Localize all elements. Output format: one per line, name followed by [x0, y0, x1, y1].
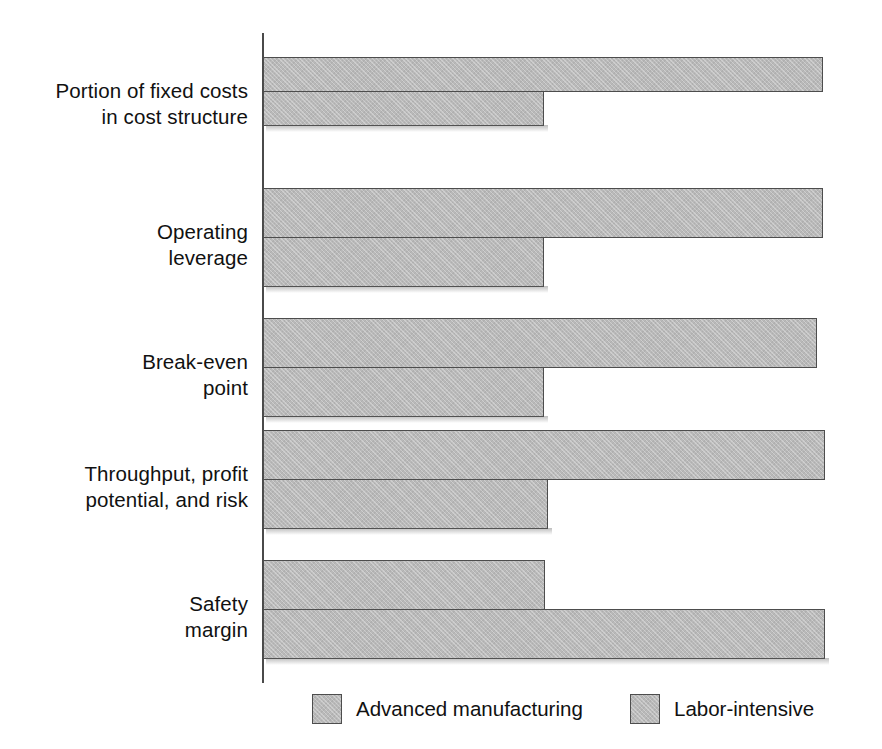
bar-advanced-manufacturing [263, 188, 823, 238]
legend-label: Labor-intensive [674, 697, 814, 721]
bar-labor-intensive [263, 609, 825, 659]
row-label-operating-leverage: Operating leverage [157, 219, 248, 271]
bar-advanced-manufacturing [263, 318, 817, 368]
row-label-text: Break-even point [142, 350, 248, 399]
bar-labor-intensive [263, 479, 548, 529]
legend-entry-labor-intensive: Labor-intensive [630, 688, 814, 730]
bar-labor-intensive [263, 367, 544, 417]
row-label-text: Safety margin [185, 592, 248, 641]
bar-advanced-manufacturing [263, 430, 825, 480]
row-label-text: Throughput, profit potential, and risk [84, 462, 248, 511]
row-label-safety-margin: Safety margin [185, 591, 248, 643]
bar-labor-intensive [263, 91, 544, 126]
legend-entry-advanced-manufacturing: Advanced manufacturing [312, 688, 583, 730]
bar-chart-figure: Portion of fixed costs in cost structure… [0, 0, 882, 749]
row-label-portion-of-fixed-costs: Portion of fixed costs in cost structure [56, 78, 249, 130]
chart-legend: Advanced manufacturing Labor-intensive [263, 688, 863, 730]
row-label-text: Operating leverage [157, 220, 248, 269]
bar-labor-intensive [263, 237, 544, 287]
legend-label: Advanced manufacturing [356, 697, 583, 721]
bar-advanced-manufacturing [263, 57, 823, 92]
legend-swatch-icon [312, 694, 342, 724]
row-label-throughput-profit-potential-risk: Throughput, profit potential, and risk [84, 461, 248, 513]
plot-area: Portion of fixed costs in cost structure… [0, 0, 882, 749]
row-label-break-even-point: Break-even point [142, 349, 248, 401]
legend-swatch-icon [630, 694, 660, 724]
row-label-text: Portion of fixed costs in cost structure [56, 79, 249, 128]
bar-advanced-manufacturing [263, 560, 545, 610]
